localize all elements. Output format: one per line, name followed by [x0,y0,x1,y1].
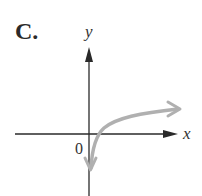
x-axis-arrowhead-icon [163,130,178,138]
y-axis [85,47,93,196]
graph [0,0,202,196]
y-axis-arrowhead-icon [85,47,93,62]
